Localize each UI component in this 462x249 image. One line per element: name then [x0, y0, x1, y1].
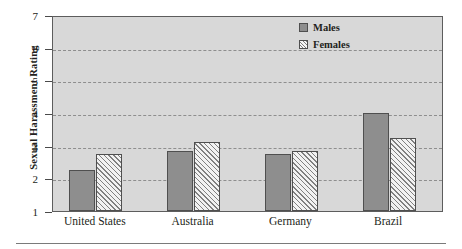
- x-label-united-states: United States: [64, 215, 126, 227]
- bar-germany-males: [265, 154, 291, 211]
- hatched-swatch: [299, 40, 308, 49]
- y-tick-label: 3: [33, 141, 39, 153]
- y-tick-label: 1: [33, 206, 39, 218]
- x-label-brazil: Brazil: [374, 215, 402, 227]
- legend-label: Females: [313, 39, 350, 50]
- y-tick-mark: [45, 16, 52, 17]
- y-tick-mark: [45, 49, 52, 50]
- y-tick-label: 5: [33, 75, 39, 87]
- x-axis-labels: United StatesAustraliaGermanyBrazil: [52, 215, 443, 237]
- chart-legend: MalesFemales: [299, 20, 395, 54]
- solid-gray-swatch: [299, 23, 308, 32]
- y-tick-mark: [45, 147, 52, 148]
- y-tick-label: 7: [33, 10, 39, 22]
- bar-brazil-males: [363, 113, 389, 211]
- y-tick-mark: [45, 114, 52, 115]
- x-label-australia: Australia: [172, 215, 214, 227]
- y-tick-label: 4: [33, 108, 39, 120]
- bar-united-states-females: [96, 154, 122, 211]
- bar-brazil-females: [390, 138, 416, 212]
- y-tick-mark: [45, 179, 52, 180]
- bar-australia-males: [167, 151, 193, 211]
- bar-chart-figure: Sexual Harassment Rating 1234567 United …: [0, 0, 462, 249]
- legend-item-males: Males: [299, 20, 395, 35]
- bar-germany-females: [292, 151, 318, 211]
- bar-australia-females: [194, 142, 220, 211]
- y-tick-mark: [45, 81, 52, 82]
- y-tick-label: 6: [33, 43, 39, 55]
- legend-label: Males: [313, 22, 340, 33]
- legend-item-females: Females: [299, 37, 395, 52]
- y-axis-ticks: 1234567: [0, 0, 52, 249]
- bar-united-states-males: [69, 170, 95, 211]
- bottom-rule-divider: [16, 243, 446, 244]
- y-tick-mark: [45, 212, 52, 213]
- x-label-germany: Germany: [269, 215, 312, 227]
- y-tick-label: 2: [33, 173, 39, 185]
